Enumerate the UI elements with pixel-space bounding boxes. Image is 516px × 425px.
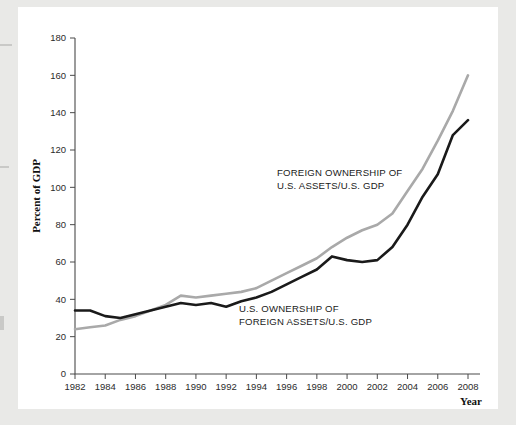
y-tick-label: 180	[50, 32, 66, 43]
series-annotation-us-line1: U.S. OWNERSHIP OF	[239, 303, 339, 314]
x-tick-label: 1990	[185, 381, 206, 392]
y-axis-ticks: 020406080100120140160180	[50, 32, 75, 379]
x-tick-label: 2008	[457, 381, 478, 392]
series-annotation-us-line2: FOREIGN ASSETS/U.S. GDP	[239, 316, 372, 327]
chart-canvas: 020406080100120140160180 198219841986198…	[0, 0, 516, 425]
y-tick-label: 140	[50, 107, 66, 118]
x-tick-label: 2002	[367, 381, 388, 392]
y-tick-label: 40	[55, 294, 66, 305]
figure-page: 020406080100120140160180 198219841986198…	[0, 0, 516, 425]
y-tick-label: 0	[61, 368, 66, 379]
y-tick-label: 100	[50, 182, 66, 193]
y-tick-label: 80	[55, 219, 66, 230]
x-tick-label: 2000	[337, 381, 358, 392]
x-tick-label: 1986	[125, 381, 146, 392]
y-tick-label: 20	[55, 331, 66, 342]
series-annotation-foreign-line1: FOREIGN OWNERSHIP OF	[277, 167, 402, 178]
x-axis-ticks: 1982198419861988199019921994199619982000…	[64, 374, 478, 392]
series-annotation-foreign-line2: U.S. ASSETS/U.S. GDP	[277, 180, 384, 191]
y-axis-title: Percent of GDP	[30, 159, 42, 233]
x-axis-title: Year	[460, 395, 482, 407]
y-tick-label: 60	[55, 256, 66, 267]
x-tick-label: 1988	[155, 381, 176, 392]
chart-figure: 020406080100120140160180 198219841986198…	[0, 0, 516, 425]
x-tick-label: 1982	[64, 381, 85, 392]
y-tick-label: 120	[50, 144, 66, 155]
x-tick-label: 1996	[276, 381, 297, 392]
x-tick-label: 1992	[216, 381, 237, 392]
x-tick-label: 1984	[95, 381, 116, 392]
x-tick-label: 2006	[427, 381, 448, 392]
x-tick-label: 1998	[306, 381, 327, 392]
series-line-us-ownership	[75, 120, 468, 318]
x-tick-label: 1994	[246, 381, 267, 392]
x-tick-label: 2004	[397, 381, 418, 392]
y-tick-label: 160	[50, 70, 66, 81]
